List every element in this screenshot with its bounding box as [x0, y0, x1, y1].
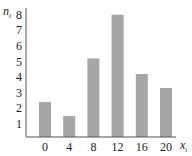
x-tick-label: 16 [136, 140, 148, 154]
y-tick-labels: 12345678 [16, 8, 22, 131]
x-tick-label: 0 [42, 140, 48, 154]
y-axis-label: ni [3, 4, 11, 20]
y-tick-label: 8 [16, 8, 22, 22]
y-tick-label: 7 [16, 23, 22, 37]
y-tick-label: 2 [16, 101, 22, 115]
y-tick-label: 3 [16, 86, 22, 100]
x-tick-label: 8 [90, 140, 96, 154]
bar-4 [63, 116, 75, 137]
x-tick-label: 20 [160, 140, 172, 154]
bar-8 [87, 58, 99, 137]
bars-group [39, 15, 172, 137]
bar-20 [160, 88, 172, 137]
x-axis-label: xi [179, 138, 187, 154]
x-tick-labels: 048121620 [42, 140, 172, 154]
bar-chart: 12345678 048121620 ni xi [0, 0, 192, 156]
y-tick-label: 4 [16, 70, 22, 84]
x-tick-label: 4 [66, 140, 72, 154]
bar-12 [112, 15, 124, 137]
x-tick-label: 12 [112, 140, 124, 154]
y-tick-label: 1 [16, 117, 22, 131]
y-tick-label: 6 [16, 39, 22, 53]
bar-16 [136, 74, 148, 137]
bar-0 [39, 102, 51, 137]
y-tick-label: 5 [16, 55, 22, 69]
